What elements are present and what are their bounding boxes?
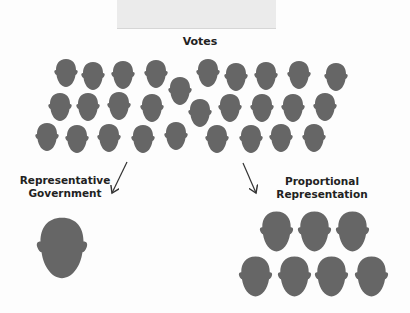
proportional-representation-label: Proportional Representation [262, 175, 382, 201]
arrow-right-icon [243, 163, 256, 193]
head-icon [334, 210, 371, 253]
label-line: Representation [262, 188, 382, 201]
head-icon [258, 210, 295, 253]
head-icon [313, 255, 350, 298]
head-icon [276, 255, 313, 298]
head-icon [34, 215, 90, 281]
label-line: Government [10, 187, 120, 200]
head-icon [353, 255, 390, 298]
head-icon [296, 210, 333, 253]
representative-government-label: Representative Government [10, 174, 120, 200]
head-icon [237, 255, 274, 298]
label-line: Representative [10, 174, 120, 187]
label-line: Proportional [262, 175, 382, 188]
